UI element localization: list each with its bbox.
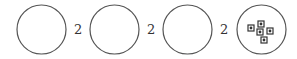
dot-center [269,30,272,33]
circle-1 [17,5,66,54]
dot-center [250,27,253,30]
circle-2 [90,5,139,54]
dot-center [260,23,263,26]
label-2: 2 [147,23,155,36]
dot-center [259,31,262,34]
dot-center [263,39,266,42]
circle-3 [163,5,212,54]
label-1: 2 [74,23,82,36]
label-3: 2 [220,23,228,36]
